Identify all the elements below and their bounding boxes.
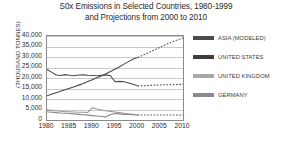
series-line-projection [138,38,183,57]
chart-figure: S0x Emissions in Selected Countries, 198… [0,0,292,141]
x-axis-tick-labels: 1980198519901995200020052010 [46,122,184,134]
plot-area [46,35,184,121]
y-tick-label: 40,000 [22,32,42,39]
x-tick-label: 1985 [61,122,76,130]
y-tick-label: 10,000 [22,95,42,102]
legend-item[interactable]: ASIA (MODELED) [193,33,266,42]
x-tick-label: 2005 [152,122,167,130]
series-lines [47,36,183,120]
x-tick-label: 2000 [129,122,144,130]
y-tick-label: 15,000 [22,84,42,91]
x-tick-label: 1980 [38,122,53,130]
y-tick-label: 20,000 [22,74,42,81]
y-tick-label: 5,000 [25,105,42,112]
series-line-solid [47,112,138,117]
chart-title-line-2: and Projections from 2000 to 2010 [0,13,292,24]
x-tick-label: 1995 [106,122,121,130]
chart-title: S0x Emissions in Selected Countries, 198… [0,2,292,23]
legend-item-label: GERMANY [218,92,248,98]
y-tick-label: 30,000 [22,53,42,60]
legend-swatch-icon [193,93,214,97]
legend-swatch-icon [193,55,214,59]
x-tick-label: 1990 [84,122,99,130]
x-tick-label: 2010 [174,122,189,130]
legend-item-label: UNITED STATES [218,54,264,60]
series-line-solid [47,70,138,86]
legend-item-label: ASIA (MODELED) [218,35,266,41]
series-line-solid [47,57,138,95]
legend-item-label: UNITED KINGDOM [218,73,270,79]
legend-item[interactable]: UNITED KINGDOM [193,71,270,80]
chart-legend: ASIA (MODELED)UNITED STATESUNITED KINGDO… [193,33,292,108]
chart-title-line-1: S0x Emissions in Selected Countries, 198… [0,2,292,13]
legend-item[interactable]: GERMANY [193,90,248,99]
legend-swatch-icon [193,74,214,78]
series-line-projection [138,84,183,86]
y-tick-label: 35,000 [22,42,42,49]
y-tick-label: 25,000 [22,63,42,70]
y-axis-tick-labels: 05,00010,00015,00020,00025,00030,00035,0… [0,35,44,119]
legend-item[interactable]: UNITED STATES [193,52,264,61]
legend-swatch-icon [193,36,214,40]
